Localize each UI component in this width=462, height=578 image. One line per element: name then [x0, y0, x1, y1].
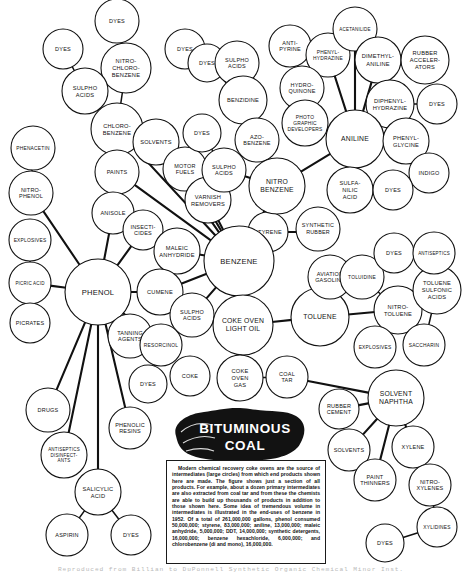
- node-dyes8[interactable]: DYES: [129, 365, 167, 403]
- node-phenolicresins[interactable]: PHENOLICRESINS: [109, 407, 151, 449]
- node-label-antiseptics: ANTISEPTICS: [418, 251, 450, 256]
- node-label-varnishremovers-2: REMOVERS: [191, 201, 225, 207]
- node-label-dyes2: DYES: [55, 46, 71, 52]
- edge-solventnaphtha-solvents2: [362, 418, 377, 435]
- edge-sulphoacids4-benzene: [206, 287, 217, 300]
- node-label-photographicdevelopers-2: GRAPHIC: [293, 121, 317, 126]
- node-label-motorfuels-2: FUELS: [176, 169, 195, 175]
- node-saccharin[interactable]: SACCHARIN: [403, 324, 445, 366]
- node-label-cokeovengas-1: COKE: [232, 368, 249, 374]
- edge-xylidines-dyes10: [402, 533, 419, 538]
- node-label-antipyrine-1: ANTI-: [282, 40, 297, 46]
- node-label-toluenesulfonicacids-1: TOLUENE: [423, 280, 451, 286]
- node-label-dyes11: DYES: [123, 532, 139, 538]
- node-dimethylaniline[interactable]: DIMETHYL-ANILINE: [355, 37, 401, 83]
- node-picrates[interactable]: PICRATES: [10, 303, 50, 343]
- node-label-sulphoacids3-1: SULPHO: [212, 164, 236, 170]
- node-antisepticsdisinfectants[interactable]: ANTISEPTICSDISINFECT-ANTS: [41, 432, 87, 478]
- node-label-photographicdevelopers-1: PHOTO: [296, 115, 314, 120]
- node-maleicanhydride[interactable]: MALEICANHYDRIDE: [154, 228, 200, 274]
- node-explosives2[interactable]: EXPLOSIVES: [354, 326, 396, 368]
- node-label-picricacid: PICRIC ACID: [15, 281, 45, 286]
- node-label-tanningagents-1: TANNING: [117, 330, 143, 336]
- node-label-paintthinners-1: PAINT: [367, 474, 384, 480]
- node-benzene[interactable]: BENZENE: [204, 226, 274, 296]
- node-antipyrine[interactable]: ANTI-PYRINE: [269, 25, 311, 67]
- node-nitroxylenes[interactable]: NITRO-XYLENES: [409, 464, 451, 506]
- node-label-dyes5: DYES: [194, 130, 210, 136]
- node-xylene[interactable]: XYLENE: [392, 426, 434, 468]
- node-label-xylidines: XYLIDINES: [423, 525, 451, 530]
- node-label-tanningagents-2: AGENTS: [118, 336, 142, 342]
- node-label-hydroquinone-2: QUINONE: [288, 88, 315, 94]
- node-dyes5[interactable]: DYES: [183, 114, 221, 152]
- node-rubbercement[interactable]: RUBBERCEMENT: [319, 389, 359, 429]
- edge-nitrobenzene-aniline: [300, 153, 331, 172]
- node-indigo[interactable]: INDIGO: [409, 153, 449, 193]
- node-label-benzene: BENZENE: [220, 257, 257, 266]
- node-coke[interactable]: COKE: [170, 356, 210, 396]
- node-photographicdevelopers[interactable]: PHOTOGRAPHICDEVELOPERS: [282, 100, 328, 146]
- node-label-explosives1: EXPLOSIVES: [14, 238, 47, 243]
- node-phenol[interactable]: PHENOL: [65, 259, 131, 325]
- node-label-nitrophenol-1: NITRO-: [21, 187, 41, 193]
- node-nitrophenol[interactable]: NITRO-PHENOL: [9, 171, 53, 215]
- node-dyes7[interactable]: DYES: [373, 170, 413, 210]
- node-label-dyes9: DYES: [386, 250, 402, 256]
- node-resorcinol[interactable]: RESORCINOL: [140, 324, 182, 366]
- node-dyes2[interactable]: DYES: [43, 29, 83, 69]
- node-dyes10[interactable]: DYES: [366, 524, 404, 562]
- node-paints[interactable]: PAINTS: [95, 150, 139, 194]
- node-drugs[interactable]: DRUGS: [26, 388, 70, 432]
- node-phenacetin[interactable]: PHENACETIN: [11, 126, 55, 170]
- node-label-sulphoacids2-1: SULPHO: [225, 57, 249, 63]
- node-cokeovenlightoil[interactable]: COKE OVENLIGHT OIL: [213, 295, 273, 355]
- node-dyes1[interactable]: DYES: [95, 0, 139, 43]
- node-label-maleicanhydride-1: MALEIC: [166, 245, 188, 251]
- node-label-anisole: ANISOLE: [100, 210, 125, 216]
- node-salicylicacid[interactable]: SALICYLICACID: [75, 469, 121, 515]
- node-label-diphenylhydrazine-1: DIPHENYL-: [374, 98, 406, 104]
- node-aniline[interactable]: ANILINE: [326, 110, 384, 168]
- node-label-explosives2: EXPLOSIVES: [359, 345, 392, 350]
- node-label-rubbercement-1: RUBBER: [327, 403, 351, 409]
- node-picricacid[interactable]: PICRIC ACID: [9, 262, 51, 304]
- edge-solventnaphtha-rubbercement: [358, 403, 370, 405]
- node-solventnaphtha[interactable]: SOLVENTNAPHTHA: [368, 370, 424, 426]
- node-nitrochlorobenzene[interactable]: NITRO-CHLORO-BENZENE: [101, 43, 151, 93]
- node-label-sulphoacids2-2: ACIDS: [228, 63, 246, 69]
- node-nitrobenzene[interactable]: NITROBENZENE: [249, 158, 305, 214]
- node-label-coaltar-1: COAL: [279, 371, 295, 377]
- node-label-toluenesulfonicacids-3: ACIDS: [428, 294, 446, 300]
- node-label-aniline: ANILINE: [341, 135, 369, 142]
- node-dyes11[interactable]: DYES: [111, 515, 151, 555]
- node-label-phenolicresins-1: PHENOLIC: [115, 422, 145, 428]
- node-xylidines[interactable]: XYLIDINES: [417, 507, 457, 547]
- node-label-acetanilide: ACETANILIDE: [339, 27, 370, 32]
- node-label-rubberaccelerators-1: RUBBER: [413, 50, 438, 56]
- node-paintthinners[interactable]: PAINTTHINNERS: [354, 459, 396, 501]
- node-label-toluenesulfonicacids-2: SULFONIC: [422, 287, 452, 293]
- node-label-hydroquinone-1: HYDRO-: [291, 82, 314, 88]
- edge-nitrochlorobenzene-chlorobenzene: [121, 92, 123, 105]
- bituminous-coal-badge: BITUMINOUS COAL: [175, 408, 304, 461]
- node-explosives1[interactable]: EXPLOSIVES: [9, 219, 51, 261]
- node-azobenzene[interactable]: AZO-BENZENE: [235, 118, 279, 162]
- node-aspirin[interactable]: ASPIRIN: [46, 514, 88, 556]
- node-label-paints: PAINTS: [107, 169, 128, 175]
- node-rubberaccelerators[interactable]: RUBBERACCELER-ATORS: [401, 36, 449, 84]
- node-label-saccharin: SACCHARIN: [409, 343, 440, 348]
- node-cokeovengas[interactable]: COKEOVENGAS: [217, 355, 263, 401]
- node-benzidine[interactable]: BENZIDINE: [219, 76, 267, 124]
- node-coaltar[interactable]: COALTAR: [266, 356, 308, 398]
- node-sulphoacids1[interactable]: SULPHOACIDS: [62, 68, 108, 114]
- node-label-nitroxylenes-1: NITRO-: [420, 479, 440, 485]
- node-antiseptics[interactable]: ANTISEPTICS: [413, 232, 455, 274]
- node-sulphoacids3[interactable]: SULPHOACIDS: [202, 148, 246, 192]
- node-label-solventnaphtha-2: NAPHTHA: [379, 398, 413, 405]
- node-label-rubbercement-2: CEMENT: [327, 409, 352, 415]
- node-dyes6[interactable]: DYES: [417, 84, 457, 124]
- node-sulfanilicacid[interactable]: SULFA-NILICACID: [327, 167, 373, 213]
- node-label-cokeovengas-3: GAS: [234, 382, 247, 388]
- node-dyes9[interactable]: DYES: [374, 233, 414, 273]
